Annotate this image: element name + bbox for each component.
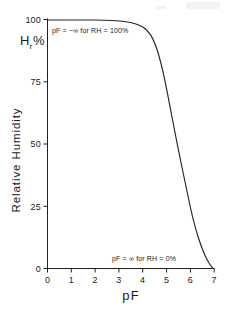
y-unit-label: H r %	[20, 33, 45, 51]
y-tick-label-75: 75	[31, 77, 41, 87]
x-tick-label-6: 6	[188, 275, 193, 285]
figure-container: 100 75 50 25 0 0 1 2 3 4 5 6 7 pF Relati…	[0, 0, 234, 309]
y-tick-label-100: 100	[25, 15, 41, 25]
x-axis-title: pF	[122, 288, 139, 303]
y-tick-label-25: 25	[31, 202, 41, 212]
x-tick-label-4: 4	[140, 275, 145, 285]
y-tick-label-50: 50	[31, 139, 41, 149]
y-tick-label-0: 0	[36, 264, 41, 274]
x-tick-label-5: 5	[164, 275, 169, 285]
x-tick-label-1: 1	[69, 275, 74, 285]
x-axis-ticks	[48, 269, 215, 273]
x-tick-label-2: 2	[92, 275, 97, 285]
y-axis-ticks	[44, 20, 48, 269]
x-tick-label-3: 3	[116, 275, 121, 285]
y-unit-label-main: H	[20, 33, 29, 48]
relative-humidity-vs-pf-chart: 100 75 50 25 0 0 1 2 3 4 5 6 7 pF Relati…	[0, 0, 234, 309]
x-tick-label-7: 7	[212, 275, 217, 285]
y-unit-label-percent: %	[33, 33, 45, 48]
x-tick-label-0: 0	[45, 275, 50, 285]
humidity-curve	[48, 20, 214, 268]
y-axis-title: Relative Humidity	[10, 108, 22, 213]
bottom-annotation: pF = ∞ for RH = 0%	[112, 255, 176, 263]
scan-artifacts	[156, 2, 220, 9]
top-annotation: pF = −∞ for RH = 100%	[52, 27, 128, 35]
